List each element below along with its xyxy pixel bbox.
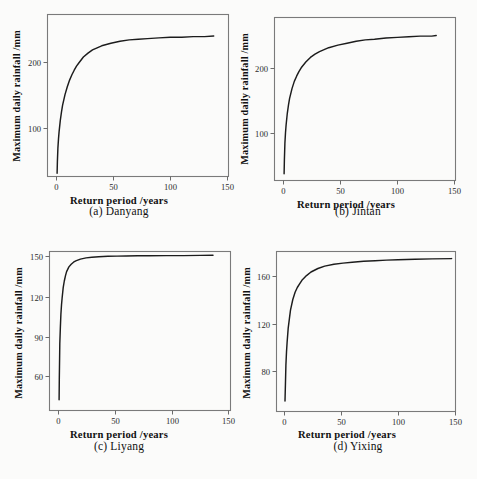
plot-area-liyang: 60 90 120 150 0 50 100 150 Maximum daily… (0, 240, 238, 440)
y-tick-label: 120 (30, 293, 43, 303)
x-axis-title: Return period /years (298, 429, 396, 440)
data-curve (284, 36, 436, 174)
y-tick-label: 150 (30, 252, 43, 262)
plot-frame (277, 252, 456, 412)
panel-yixing: 80 120 160 0 50 100 150 Maximum daily ra… (239, 240, 477, 479)
y-axis-title: Maximum daily rainfall /mm (241, 267, 252, 399)
y-axis-title: Maximum daily rainfall /mm (11, 30, 22, 162)
y-axis-title: Maximum daily rainfall /mm (239, 33, 250, 165)
y-ticks: 80 120 160 (257, 272, 276, 377)
x-axis-title: Return period /years (70, 195, 168, 206)
panel-liyang: 60 90 120 150 0 50 100 150 Maximum daily… (0, 240, 238, 479)
chart-svg-liyang: 60 90 120 150 0 50 100 150 Maximum daily… (0, 240, 238, 440)
y-tick-label: 60 (34, 372, 43, 382)
y-tick-label: 80 (261, 367, 270, 377)
figure-container: 100 200 0 50 100 150 Maximum daily rainf… (0, 0, 477, 479)
chart-svg-yixing: 80 120 160 0 50 100 150 Maximum daily ra… (239, 240, 477, 440)
y-tick-label: 200 (255, 64, 268, 74)
x-axis-title-yixing-wrap: Return period /years (228, 424, 466, 442)
y-tick-label: 200 (28, 58, 41, 68)
y-tick-label: 100 (28, 124, 41, 134)
x-axis-title: Return period /years (70, 429, 168, 440)
data-curve (59, 255, 213, 399)
plot-area-danyang: 100 200 0 50 100 150 Maximum daily rainf… (0, 0, 238, 200)
data-curve (285, 259, 452, 402)
plot-area-yixing: 80 120 160 0 50 100 150 Maximum daily ra… (239, 240, 477, 440)
chart-svg-danyang: 100 200 0 50 100 150 Maximum daily rainf… (0, 0, 238, 200)
y-tick-label: 90 (34, 333, 43, 343)
y-tick-label: 120 (257, 320, 270, 330)
y-ticks: 60 90 120 150 (30, 252, 49, 382)
chart-svg-jintan: 100 200 0 50 100 150 Maximum daily rainf… (239, 0, 477, 200)
x-axis-title-danyang-wrap: Return period /years (0, 190, 238, 208)
x-axis-title-jintan-wrap: Return period /years (227, 194, 465, 212)
y-ticks: 100 200 (255, 64, 274, 139)
y-ticks: 100 200 (28, 58, 47, 134)
x-axis-title-liyang-wrap: Return period /years (0, 424, 238, 442)
y-axis-title: Maximum daily rainfall /mm (13, 267, 24, 399)
plot-frame (275, 18, 456, 181)
plot-area-jintan: 100 200 0 50 100 150 Maximum daily rainf… (239, 0, 477, 200)
x-axis-title: Return period /years (297, 199, 395, 210)
y-tick-label: 100 (255, 129, 268, 139)
y-tick-label: 160 (257, 272, 270, 282)
data-curve (57, 36, 214, 173)
plot-frame (50, 252, 231, 411)
